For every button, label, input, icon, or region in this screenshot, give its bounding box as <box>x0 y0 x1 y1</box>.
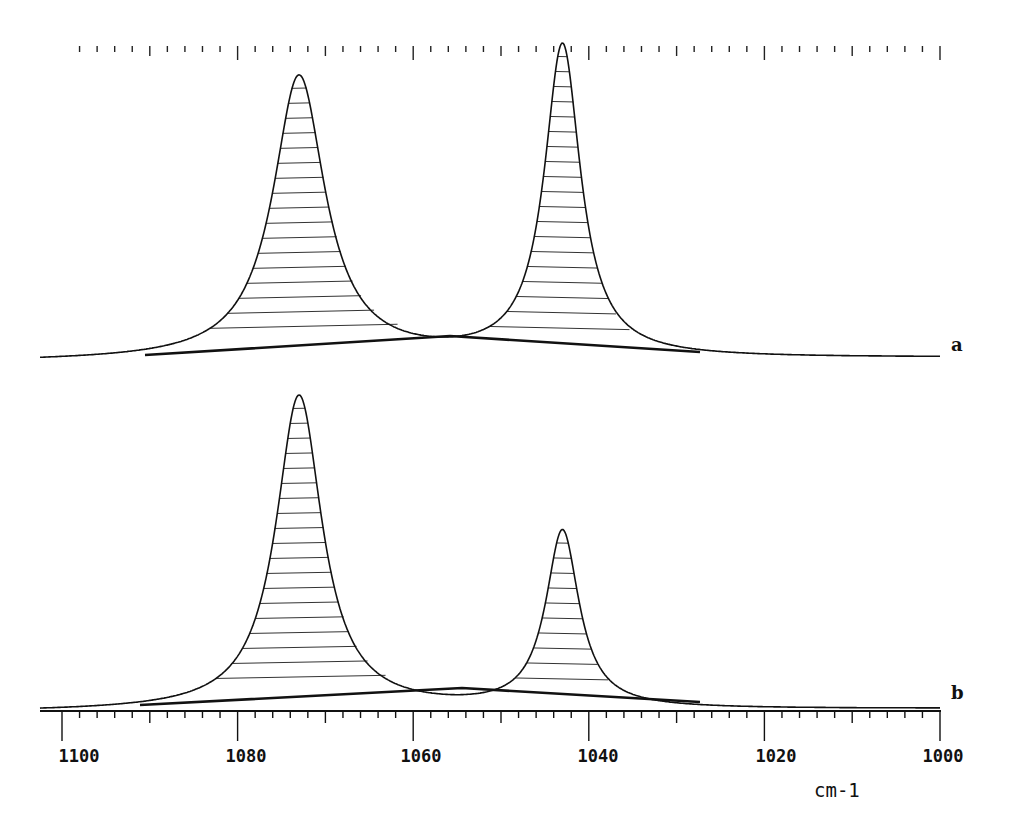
peak-hatch-line <box>547 146 578 147</box>
peak-hatch-line <box>253 266 346 268</box>
x-tick-label-1040: 1040 <box>578 746 619 766</box>
peak-hatch-line <box>537 221 588 222</box>
peak-hatch-line <box>541 191 583 192</box>
peak-hatch-line <box>262 237 337 239</box>
peak-hatch-line <box>266 222 333 223</box>
peak-hatch-line <box>270 557 329 558</box>
peak-hatch-line <box>506 311 616 313</box>
peak-hatch-line <box>545 603 580 604</box>
x-tick-label-1060: 1060 <box>401 746 442 766</box>
peak-hatch-line <box>538 633 587 634</box>
x-tick-label-1080: 1080 <box>226 746 267 766</box>
spectrum-curve <box>40 395 940 708</box>
peak-hatch-line <box>531 251 594 252</box>
peak-hatch-line <box>278 162 321 163</box>
peak-hatch-line <box>527 266 598 268</box>
peak-hatch-line <box>242 646 357 648</box>
peak-hatch-line <box>258 252 341 254</box>
peak-hatch-line <box>275 528 324 529</box>
peak-hatch-line <box>250 632 350 634</box>
peak-hatch-line <box>216 675 386 678</box>
peak-hatch-line <box>526 663 597 664</box>
peak-hatch-line <box>269 207 329 208</box>
peak-hatch-line <box>542 618 583 619</box>
peak-hatch-line <box>273 542 327 543</box>
peak-hatch-line <box>534 236 591 237</box>
bottom-x-axis <box>40 711 941 741</box>
x-axis-unit-label: cm-1 <box>814 779 860 801</box>
peak-hatch-line <box>210 324 398 328</box>
peak-hatch-line <box>264 587 336 588</box>
x-tick-label-1020: 1020 <box>756 746 797 766</box>
peak-hatch-line <box>284 468 316 469</box>
trace-label-b: b <box>951 682 964 703</box>
top-tick-axis <box>80 46 940 60</box>
spectrum-curve <box>40 43 940 357</box>
peak-hatch-line <box>239 296 362 299</box>
trace-label-a: a <box>951 334 963 355</box>
spectrum-trace-a <box>40 43 940 357</box>
peak-hatch-line <box>550 116 575 117</box>
peak-hatch-line <box>533 648 591 649</box>
peak-hatch-line <box>232 661 368 664</box>
peak-hatch-line <box>281 483 317 484</box>
peak-hatch-line <box>286 118 314 119</box>
peak-hatch-line <box>247 281 353 283</box>
peak-hatch-line <box>277 513 321 514</box>
peak-hatch-line <box>267 572 332 573</box>
peak-hatch-line <box>543 176 582 177</box>
x-tick-label-1000: 1000 <box>923 746 964 766</box>
peak-hatch-line <box>272 192 326 193</box>
peak-hatch-line <box>283 133 316 134</box>
spectrum-chart <box>0 0 1009 832</box>
peak-hatch-line <box>548 588 577 589</box>
peak-hatch-line <box>539 206 586 207</box>
peak-hatch-line <box>515 678 608 680</box>
peak-hatch-line <box>275 177 324 178</box>
peak-hatch-line <box>489 326 630 329</box>
peak-hatch-line <box>548 131 576 132</box>
spectrum-trace-b <box>40 395 940 708</box>
peak-hatch-line <box>545 161 580 162</box>
peak-hatch-line <box>228 310 375 313</box>
x-tick-label-1100: 1100 <box>59 746 100 766</box>
peak-hatch-line <box>255 617 344 619</box>
peak-hatch-line <box>279 498 319 499</box>
fitted-baseline <box>145 336 700 355</box>
peak-hatch-line <box>280 148 318 149</box>
peak-hatch-line <box>522 281 602 283</box>
peak-hatch-line <box>516 296 608 298</box>
peak-hatch-line <box>260 602 339 603</box>
